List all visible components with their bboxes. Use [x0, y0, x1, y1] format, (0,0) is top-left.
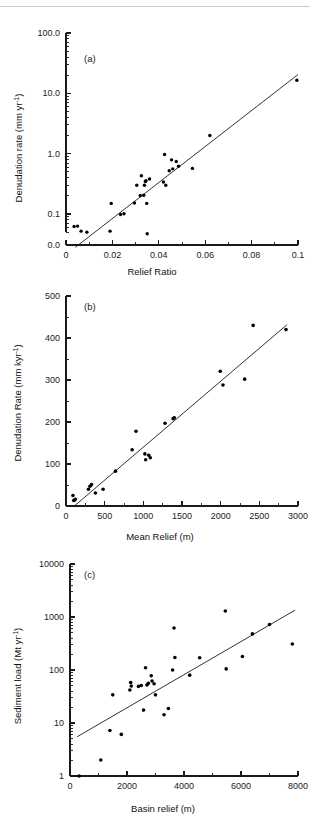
chart-c-ytick-label: 1 [59, 771, 64, 781]
chart-c-xtick-label: 4000 [174, 781, 194, 791]
chart-a-xtick-label: 0 [63, 250, 68, 260]
chart-a-data-point [162, 180, 165, 183]
chart-c-data-point [224, 667, 228, 671]
chart-c-data-point [77, 774, 81, 778]
chart-b-data-point [148, 456, 152, 460]
chart-c-xtick-label: 0 [67, 781, 72, 791]
chart-b-data-point [134, 429, 138, 433]
chart-a-data-point [143, 184, 146, 187]
chart-c-xtick-label: 8000 [288, 781, 308, 791]
chart-a-data-point [135, 184, 138, 187]
chart-a-data-point [168, 169, 171, 172]
chart-c-data-point [251, 632, 255, 636]
chart-b-ytick-label: 0 [55, 501, 60, 511]
chart-a-data-point [108, 229, 111, 232]
chart-c-data-point [108, 729, 112, 733]
chart-a-xaxis-title: Relief Ratio [127, 266, 176, 277]
chart-b-data-point [251, 324, 255, 328]
chart-a-data-point [163, 153, 166, 156]
chart-a-data-point [146, 232, 149, 235]
chart-a-data-point [148, 177, 151, 180]
chart-a-data [72, 75, 298, 248]
chart-b-axes: 0100200300400500050010001500200025003000 [45, 291, 308, 521]
chart-a-data-point [164, 184, 167, 187]
chart-b-xtick-label: 1000 [133, 511, 153, 521]
chart-c-data-point [129, 681, 133, 685]
chart-b-data-point [71, 494, 75, 498]
chart-c-data-point [173, 656, 177, 660]
chart-b-data-point [284, 328, 288, 332]
chart-b-yaxis-title: Denudation Rate (mm kyr-1) [12, 344, 23, 461]
chart-c-yaxis-title: Sediment load (Mt yr-1) [12, 628, 23, 725]
chart-a-ytick-label: 0.1 [47, 209, 60, 219]
page-top-rule [0, 6, 310, 7]
chart-b-ytick-label: 300 [45, 375, 60, 385]
chart-b-ytick-label: 400 [45, 333, 60, 343]
panel-label-a: (a) [84, 53, 96, 64]
chart-c-data-point [111, 693, 115, 697]
chart-a-data-point [171, 167, 174, 170]
chart-c-data-point [167, 707, 171, 711]
chart-a-data-point [79, 229, 82, 232]
chart-c-data-point [171, 668, 175, 672]
chart-b-data [71, 324, 288, 507]
chart-c-data-point [128, 688, 132, 692]
chart-panel-c: 11010010001000002000400060008000 (c) Bas… [0, 546, 310, 820]
chart-a-data-point [144, 179, 147, 182]
chart-a-xtick-label: 0.02 [104, 250, 122, 260]
chart-a-ytick-label: 1.0 [47, 149, 60, 159]
chart-a-data-point [295, 79, 298, 82]
chart-b-svg: 0100200300400500050010001500200025003000… [0, 278, 310, 546]
chart-a-data-point [72, 225, 75, 228]
panel-label-b: (b) [84, 301, 96, 312]
chart-b-xtick-label: 2000 [211, 511, 231, 521]
chart-b-data-point [172, 416, 176, 420]
chart-a-data-point [85, 230, 88, 233]
chart-panel-a: 100.010.01.00.10.000.020.040.060.080.1 (… [0, 14, 310, 278]
chart-a-data-point [142, 193, 145, 196]
chart-b-data-point [218, 369, 222, 373]
chart-c-data-point [147, 682, 151, 686]
chart-c-data-point [154, 693, 158, 697]
chart-c-data-point [152, 682, 156, 686]
chart-c-data-point [149, 674, 153, 678]
chart-b-xtick-label: 2500 [249, 511, 269, 521]
chart-a-xtick-label: 0.1 [292, 250, 305, 260]
chart-b-data-point [143, 452, 147, 456]
chart-c-svg: 11010010001000002000400060008000 (c) Bas… [0, 546, 310, 820]
chart-b-xtick-label: 1500 [172, 511, 192, 521]
chart-b-ytick-label: 100 [45, 459, 60, 469]
chart-a-data-point [140, 174, 143, 177]
chart-b-data-point [90, 483, 94, 487]
chart-c-fit-line [77, 610, 295, 737]
chart-a-data-point [133, 201, 136, 204]
chart-a-data-point [175, 160, 178, 163]
chart-b-data-point [163, 421, 167, 425]
chart-b-data-point [243, 377, 247, 381]
chart-a-xtick-label: 0.06 [196, 250, 214, 260]
panel-label-c: (c) [84, 569, 95, 580]
chart-c-data-point [144, 666, 148, 670]
chart-c-data-point [188, 673, 192, 677]
chart-b-xaxis-title: Mean Relief (m) [126, 531, 194, 542]
chart-b-fit-line [73, 325, 287, 507]
chart-a-fit-line [75, 75, 298, 248]
chart-a-ytick-label: 100.0 [37, 28, 60, 38]
chart-b-data-point [114, 469, 118, 473]
chart-a-ytick-label: 10.0 [42, 88, 60, 98]
chart-c-data-point [241, 655, 245, 659]
chart-b-data-point [101, 487, 105, 491]
chart-c-data-point [99, 758, 103, 762]
chart-c-axes: 11010010001000002000400060008000 [39, 559, 308, 791]
chart-panel-b: 0100200300400500050010001500200025003000… [0, 278, 310, 546]
chart-b-ytick-label: 200 [45, 417, 60, 427]
chart-c-data-point [291, 642, 295, 646]
chart-c-ytick-label: 10 [54, 718, 64, 728]
chart-b-data-point [73, 497, 77, 501]
chart-a-data-point [170, 158, 173, 161]
chart-c-data-point [268, 623, 272, 627]
chart-c-xaxis-title: Basin relief (m) [131, 803, 195, 814]
chart-c-xtick-label: 2000 [117, 781, 137, 791]
chart-c-data-point [129, 684, 133, 688]
chart-c-data-point [172, 626, 176, 630]
